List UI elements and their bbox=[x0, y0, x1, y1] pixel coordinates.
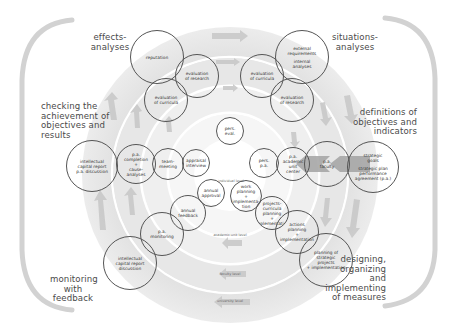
bubble-strategic-goals-performance-agreement: strategicgoalsstrategic planperformancea… bbox=[347, 141, 399, 193]
level-label-academic-unit: academic unit level bbox=[210, 233, 250, 237]
phase-monitoring-feedback: monitoring with feedback bbox=[50, 275, 96, 304]
bubble-intellectual-capital-report-discussion: intellectualcapital reportdiscussion bbox=[103, 236, 157, 290]
phase-situations-analyses: situations- analyses bbox=[327, 33, 383, 52]
bubble-team-meeting: team-meeting bbox=[152, 148, 184, 180]
bubble-planning-strategic-projects: planning ofstrategicprojects+ implementa… bbox=[299, 233, 353, 287]
management-cycle-diagram: individual level academic unit level fac… bbox=[0, 0, 457, 323]
bubble-pa-faculty: p.a.faculty bbox=[304, 141, 350, 187]
bubble-intellectual-capital-report-pa-discussion: intellectualcapital reportp.a. discussio… bbox=[66, 140, 118, 192]
bubble-evaluation-of-curricula-left: evaluationof curricula bbox=[144, 78, 188, 122]
phase-effects-analyses: effects- analyses bbox=[90, 33, 130, 52]
bubble-appraisal-interview: appraisalinterview bbox=[182, 149, 210, 177]
left-bracket bbox=[22, 20, 72, 310]
level-label-faculty: faculty level bbox=[210, 272, 250, 276]
bubble-pers-eval: pers.eval. bbox=[216, 117, 244, 145]
phase-checking-achievement: checking the achievement of objectives a… bbox=[41, 102, 121, 140]
bubble-evaluation-of-research-right: evaluationof research bbox=[270, 78, 314, 122]
phase-definitions-objectives: definitions of objectives and indicators bbox=[337, 108, 417, 137]
level-label-university: university level bbox=[205, 299, 255, 303]
bubble-pa-completion-cause-analyses: p.a.completion+cause-analyses bbox=[116, 144, 156, 184]
bubble-pers-pa: pers.p.a. bbox=[249, 148, 279, 178]
